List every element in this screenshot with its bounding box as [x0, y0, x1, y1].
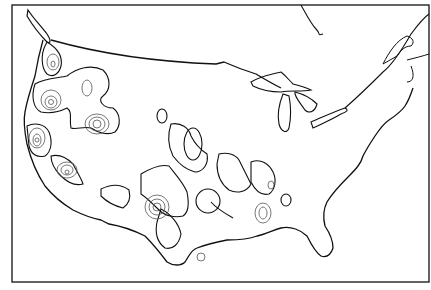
- vancouver-island: [27, 10, 50, 43]
- lake-huron: [295, 92, 317, 112]
- hudson-bay-outline: [301, 5, 323, 35]
- isolated-contours: [157, 109, 291, 218]
- map-frame: [11, 4, 430, 283]
- lake-erie-ontario: [311, 108, 347, 128]
- st-lawrence-outline: [345, 14, 429, 108]
- us-coastline: [24, 40, 413, 265]
- us-contour-map: [11, 4, 430, 283]
- lake-superior: [251, 72, 311, 92]
- lake-michigan: [278, 94, 290, 131]
- maritimes-outline: [407, 54, 429, 82]
